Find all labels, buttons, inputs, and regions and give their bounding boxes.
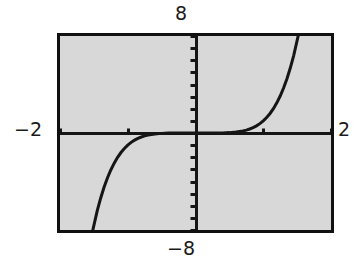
- y-max-label: 8: [0, 4, 362, 23]
- graphing-calculator-screen: 8 −2 2 −8: [0, 0, 362, 261]
- x-min-label: −2: [14, 120, 42, 139]
- x-max-label: 2: [338, 120, 350, 139]
- y-min-label: −8: [0, 239, 362, 258]
- plot-frame: [57, 33, 334, 233]
- plot-surface: [60, 36, 331, 230]
